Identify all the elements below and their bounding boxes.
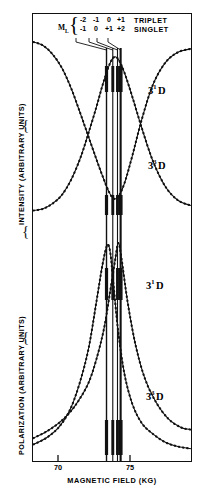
ml-value-singlet-1: 0 [89,25,103,32]
curve-label-term: D [156,280,164,291]
ml-value-triplet-1: -1 [89,16,103,23]
ml-value-singlet-3: +2 [114,25,128,32]
curve-label-multiplicity: 1 [153,83,156,90]
manifold-label-triplet: TRIPLET [134,16,167,25]
curve-label-multiplicity: 3 [153,158,156,165]
curve-label-term: D [158,160,166,171]
ml-values-singlet: -1 0 +1 +2 [76,25,130,34]
x-axis-label: MAGNETIC FIELD (KG) [32,476,192,485]
curve-label-multiplicity: 3 [151,389,154,396]
ml-values-triplet: -2 -1 0 +1 [76,16,130,25]
x-tick-label-75: 75 [126,463,134,472]
legend: ML { -2 -1 0 +1 -1 0 +1 +2 TRIPLET SINGL… [58,15,190,41]
ml-value-singlet-0: -1 [76,25,90,32]
curve-label-multiplicity: 1 [151,278,154,285]
axis-brace-middle: { [22,224,29,239]
x-tick-label-70: 70 [54,463,62,472]
ml-symbol-label: ML [58,23,69,34]
ml-value-triplet-3: +1 [114,16,128,23]
figure-root: INTENSITY (ARBITRARY UNITS) POLARIZATION… [0,0,203,497]
curve-label-3-1-D-polarization: 31D [146,278,164,291]
axis-brace-lower: { [22,330,29,345]
curve-label-3-1-D-intensity: 31D [148,83,166,96]
manifold-label-singlet: SINGLET [134,25,169,34]
ml-value-triplet-0: -2 [76,16,90,23]
curve-label-3-3-D-polarization: 33D [146,389,164,402]
axis-brace-upper: { [22,118,29,133]
curve-label-term: D [158,85,166,96]
curve-label-term: D [156,391,164,402]
curve-label-3-3-D-intensity: 33D [148,158,166,171]
plot-frame [32,13,192,462]
